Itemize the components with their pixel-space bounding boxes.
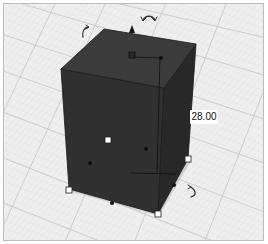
height-dimension-value[interactable]: 28.00 — [190, 110, 218, 124]
top-center-handle[interactable] — [129, 52, 135, 58]
corner-handle-left[interactable] — [66, 187, 72, 193]
workplane-canvas[interactable] — [4, 4, 263, 240]
corner-handle-front[interactable] — [155, 211, 161, 217]
center-handle[interactable] — [105, 137, 111, 143]
corner-handle-right[interactable] — [185, 156, 191, 162]
3d-viewport[interactable]: 28.00 — [3, 3, 264, 241]
